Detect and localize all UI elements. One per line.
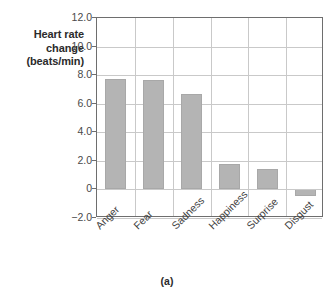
y-tick-label: 8.0 [52, 68, 92, 80]
y-axis-tick-labels: 12.010.08.06.04.02.00−2.0 [48, 17, 92, 217]
y-tick-label: 2.0 [52, 154, 92, 166]
gridline-x-1 [135, 18, 136, 216]
gridline-x-3 [211, 18, 212, 216]
y-tick-label: 6.0 [52, 97, 92, 109]
gridline-y-10.0 [97, 47, 322, 48]
bar-chart-figure: Heart rate change (beats/min) 12.010.08.… [0, 0, 334, 289]
y-tick-label: 0 [52, 182, 92, 194]
gridline-y-8.0 [97, 75, 322, 76]
gridline-x-5 [286, 18, 287, 216]
bar-surprise [257, 169, 278, 189]
x-axis-category-labels: AngerFearSadnessHappinessSurpriseDisgust [96, 217, 323, 277]
bar-fear [143, 80, 164, 189]
figure-caption: (a) [0, 275, 334, 287]
gridline-y-6.0 [97, 104, 322, 105]
y-tick-label: 4.0 [52, 125, 92, 137]
plot-area [96, 17, 323, 217]
bar-sadness [181, 94, 202, 189]
y-tick-label: −2.0 [52, 211, 92, 223]
bar-happiness [219, 164, 240, 190]
zero-baseline [97, 189, 322, 190]
gridline-y-2.0 [97, 161, 322, 162]
gridline-x-4 [248, 18, 249, 216]
gridline-y-4.0 [97, 132, 322, 133]
gridline-x-2 [173, 18, 174, 216]
y-tick-label: 12.0 [52, 11, 92, 23]
bar-anger [105, 79, 126, 189]
y-tick-label: 10.0 [52, 40, 92, 52]
